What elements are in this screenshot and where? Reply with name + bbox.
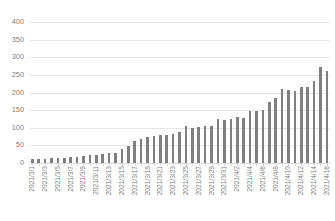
bar[interactable] xyxy=(255,111,258,163)
bar[interactable] xyxy=(31,159,34,163)
bar[interactable] xyxy=(146,137,149,163)
bar[interactable] xyxy=(133,141,136,163)
bar[interactable] xyxy=(326,71,329,163)
bar[interactable] xyxy=(127,146,130,163)
x-axis-tick xyxy=(295,164,296,166)
bar[interactable] xyxy=(319,67,322,163)
bar[interactable] xyxy=(69,157,72,163)
x-axis: 2021/3/12021/3/32021/3/52021/3/72021/3/9… xyxy=(29,164,330,221)
bar[interactable] xyxy=(281,89,284,163)
bar[interactable] xyxy=(37,159,40,163)
x-axis-tick xyxy=(103,164,104,166)
bar[interactable] xyxy=(262,110,265,163)
x-axis-tick xyxy=(64,164,65,166)
bar[interactable] xyxy=(294,91,297,163)
x-axis-tick xyxy=(141,164,142,166)
x-axis-tick xyxy=(90,164,91,166)
x-axis-tick xyxy=(269,164,270,166)
bar[interactable] xyxy=(76,157,79,163)
bar[interactable] xyxy=(95,155,98,163)
x-axis-tick xyxy=(192,164,193,166)
y-axis-tick-label: 300 xyxy=(0,54,24,61)
bar[interactable] xyxy=(89,155,92,163)
x-axis-tick xyxy=(167,164,168,166)
bar[interactable] xyxy=(300,87,303,163)
bar[interactable] xyxy=(242,118,245,163)
x-axis-tick-label: 2021/4/16 xyxy=(324,166,331,195)
bar[interactable] xyxy=(178,132,181,163)
bar[interactable] xyxy=(159,135,162,163)
bar[interactable] xyxy=(114,153,117,163)
bar[interactable] xyxy=(63,158,66,163)
bar[interactable] xyxy=(101,154,104,163)
x-axis-tick xyxy=(244,164,245,166)
x-axis-tick xyxy=(205,164,206,166)
y-axis-tick-label: 200 xyxy=(0,89,24,96)
x-axis-tick xyxy=(128,164,129,166)
bar-series xyxy=(29,22,330,163)
y-axis-tick-label: 350 xyxy=(0,36,24,43)
bar[interactable] xyxy=(121,149,124,163)
y-axis-tick-label: 100 xyxy=(0,124,24,131)
bar[interactable] xyxy=(153,136,156,163)
x-axis-tick xyxy=(308,164,309,166)
bar-slot xyxy=(324,22,330,163)
x-axis-slot: 2021/4/16 xyxy=(324,164,330,221)
x-axis-tick xyxy=(256,164,257,166)
bar[interactable] xyxy=(204,126,207,163)
bar-chart: 050100150200250300350400 2021/3/12021/3/… xyxy=(0,0,335,221)
x-axis-tick xyxy=(115,164,116,166)
bar[interactable] xyxy=(185,126,188,163)
bar[interactable] xyxy=(313,81,316,163)
bar[interactable] xyxy=(274,98,277,163)
y-axis-tick-label: 0 xyxy=(0,159,24,166)
x-axis-tick xyxy=(39,164,40,166)
bar[interactable] xyxy=(165,135,168,163)
y-axis-tick-label: 50 xyxy=(0,142,24,149)
x-axis-tick xyxy=(180,164,181,166)
bar[interactable] xyxy=(50,158,53,163)
y-axis-tick-label: 150 xyxy=(0,106,24,113)
bar[interactable] xyxy=(306,87,309,163)
y-axis-tick-label: 400 xyxy=(0,18,24,25)
bar[interactable] xyxy=(268,102,271,163)
bar[interactable] xyxy=(197,127,200,163)
bar[interactable] xyxy=(57,158,60,163)
bar[interactable] xyxy=(230,119,233,163)
plot-area xyxy=(29,22,330,163)
bar[interactable] xyxy=(287,90,290,163)
bar[interactable] xyxy=(140,139,143,163)
x-axis-tick xyxy=(51,164,52,166)
y-axis: 050100150200250300350400 xyxy=(0,22,26,163)
bar[interactable] xyxy=(191,128,194,163)
bar[interactable] xyxy=(217,119,220,163)
bar[interactable] xyxy=(82,156,85,163)
x-axis-tick xyxy=(320,164,321,166)
bar[interactable] xyxy=(223,120,226,163)
bar[interactable] xyxy=(44,159,47,163)
bar[interactable] xyxy=(249,111,252,163)
bar[interactable] xyxy=(172,134,175,163)
y-axis-tick-label: 250 xyxy=(0,71,24,78)
bar[interactable] xyxy=(236,117,239,163)
bar[interactable] xyxy=(210,126,213,163)
x-axis-tick xyxy=(231,164,232,166)
bar[interactable] xyxy=(108,153,111,163)
